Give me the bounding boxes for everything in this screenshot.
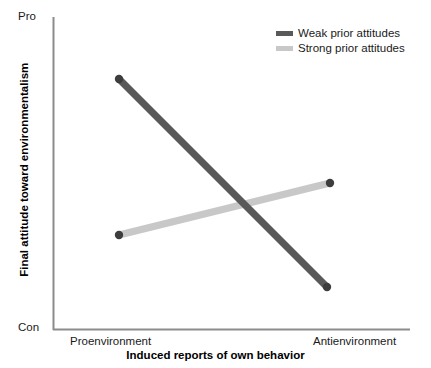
legend-swatch-icon bbox=[276, 46, 293, 51]
data-point-marker bbox=[323, 283, 331, 291]
chart-legend: Weak prior attitudes Strong prior attitu… bbox=[276, 26, 405, 56]
data-point-marker bbox=[115, 231, 123, 239]
legend-swatch-icon bbox=[276, 31, 293, 36]
x-axis-tick-label-antienvironment: Antienvironment bbox=[313, 336, 396, 348]
legend-item-label: Weak prior attitudes bbox=[298, 28, 400, 40]
x-axis-tick-label-proenvironment: Proenvironment bbox=[70, 336, 151, 348]
legend-item-strong-prior-attitudes: Strong prior attitudes bbox=[276, 41, 405, 56]
series-line-strong-prior-attitudes bbox=[119, 183, 330, 235]
data-point-marker bbox=[115, 75, 123, 83]
legend-item-weak-prior-attitudes: Weak prior attitudes bbox=[276, 26, 405, 41]
y-axis-title: Final attitude toward environmentalism bbox=[19, 15, 31, 325]
legend-item-label: Strong prior attitudes bbox=[298, 43, 405, 55]
x-axis-title: Induced reports of own behavior bbox=[0, 350, 431, 362]
data-point-marker bbox=[326, 179, 334, 187]
series-line-weak-prior-attitudes bbox=[119, 79, 327, 287]
line-chart-figure: Pro Con Proenvironment Antienvironment I… bbox=[0, 0, 431, 368]
